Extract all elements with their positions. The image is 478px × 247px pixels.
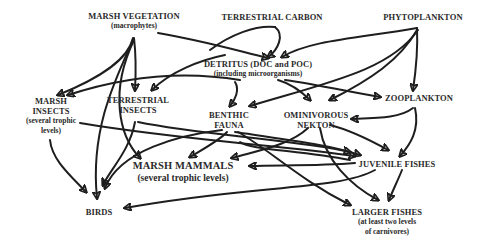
node-label: ZOOPLANKTON	[385, 93, 453, 103]
node-detritus: DETRITUS (DOC and POC) (including microo…	[204, 59, 312, 79]
edge-detritus-zooplankton	[285, 80, 380, 97]
node-label: LARGER FISHES	[352, 207, 422, 217]
node-marsh-mammals: MARSH MAMMALS (several trophic levels)	[133, 160, 234, 184]
node-juvenile-fishes: JUVENILE FISHES	[359, 159, 436, 169]
node-label: BIRDS	[86, 207, 112, 217]
edge-benthic-mammals	[190, 132, 227, 157]
node-marsh-insects: MARSH INSECTS (several trophic levels)	[26, 96, 76, 136]
edge-marsh-insects-birds	[50, 140, 86, 192]
node-label: PHYTOPLANKTON	[383, 12, 462, 22]
edge-juvenile-mammals	[250, 163, 355, 166]
node-birds: BIRDS	[86, 207, 112, 217]
node-zooplankton: ZOOPLANKTON	[385, 93, 453, 103]
node-ominivorous-nekton: OMINIVOROUS NEKTON	[284, 110, 349, 130]
node-label-line2: INSECTS	[107, 105, 169, 115]
node-label: OMINIVOROUS	[284, 110, 349, 120]
edge-juvenile-larger	[389, 170, 402, 200]
edge-zoo-nekton	[352, 108, 413, 119]
node-label: DETRITUS (DOC and POC)	[204, 59, 312, 69]
node-label: TERRESTRIAL	[107, 95, 169, 105]
edge-vegetation-detritus	[158, 33, 268, 58]
node-sublabel: (several trophic levels)	[133, 172, 234, 184]
node-label: BENTHIC	[209, 110, 249, 120]
edge-detritus-benthic	[230, 82, 237, 106]
node-label: MARSH VEGETATION	[88, 11, 180, 21]
edge-vegetation-terrestrial-insects	[134, 38, 136, 90]
edge-zoo-juvenile	[400, 108, 416, 156]
node-label-line2: INSECTS	[26, 106, 76, 116]
node-sublabel-line2: of carnivores)	[352, 227, 422, 237]
node-sublabel-line2: levels)	[26, 126, 76, 136]
node-sublabel: (at least two levels	[352, 217, 422, 227]
node-larger-fishes: LARGER FISHES (at least two levels of ca…	[352, 207, 422, 237]
node-sublabel: (macrophytes)	[88, 21, 180, 31]
node-label: MARSH MAMMALS	[133, 160, 234, 172]
node-marsh-vegetation: MARSH VEGETATION (macrophytes)	[88, 11, 180, 31]
node-label: TERRESTRIAL CARBON	[221, 12, 322, 22]
node-label-line2: NEKTON	[284, 120, 349, 130]
edge-phyto-detritus	[282, 28, 417, 57]
food-web-diagram: MARSH VEGETATION (macrophytes) TERRESTRI…	[0, 0, 478, 247]
node-sublabel: (several trophic	[26, 116, 76, 126]
node-label: JUVENILE FISHES	[359, 159, 436, 169]
edge-terrestrial-carbon-detritus	[268, 27, 280, 57]
node-terrestrial-carbon: TERRESTRIAL CARBON	[221, 12, 322, 22]
node-terrestrial-insects: TERRESTRIAL INSECTS	[107, 95, 169, 115]
node-phytoplankton: PHYTOPLANKTON	[383, 12, 462, 22]
node-label-line2: FAUNA	[209, 120, 249, 130]
node-sublabel: (including microorganisms)	[204, 69, 312, 79]
node-label: MARSH	[26, 96, 76, 106]
node-benthic-fauna: BENTHIC FAUNA	[209, 110, 249, 130]
